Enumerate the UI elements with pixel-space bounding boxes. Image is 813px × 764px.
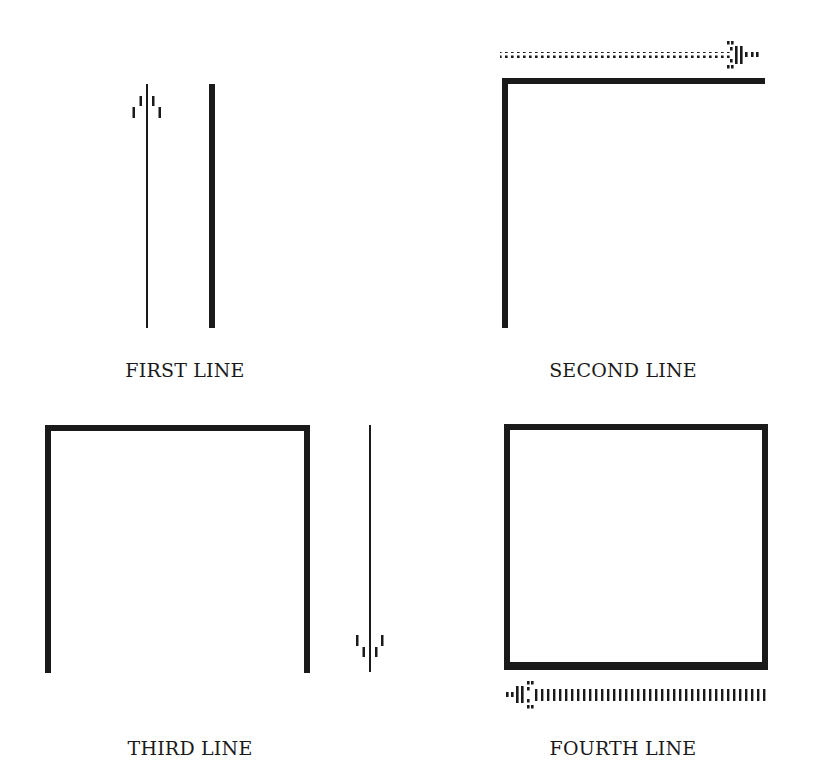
thick-bottom-line: [504, 662, 768, 670]
thick-right-line: [304, 425, 310, 673]
thick-vertical-line: [209, 84, 215, 328]
thick-right-line: [762, 424, 768, 670]
caption-third-line: THIRD LINE: [128, 737, 253, 759]
panel-first-line: [133, 84, 216, 328]
panel-third-line: [45, 425, 384, 673]
thick-vertical-line: [502, 79, 508, 328]
caption-second-line: SECOND LINE: [549, 359, 697, 381]
thick-top-line: [45, 425, 310, 431]
thick-left-line: [504, 424, 510, 670]
caption-fourth-line: FOURTH LINE: [550, 737, 697, 759]
caption-first-line: FIRST LINE: [125, 359, 244, 381]
right-arrow-icon: [500, 41, 759, 69]
panel-second-line: [500, 41, 765, 328]
thick-horizontal-line: [502, 78, 765, 84]
down-arrow-icon: [356, 425, 384, 672]
left-arrow-icon: [506, 681, 766, 709]
thick-left-line: [45, 425, 51, 673]
thick-top-line: [504, 424, 768, 430]
up-arrow-icon: [133, 84, 162, 328]
panel-fourth-line: [504, 424, 768, 709]
